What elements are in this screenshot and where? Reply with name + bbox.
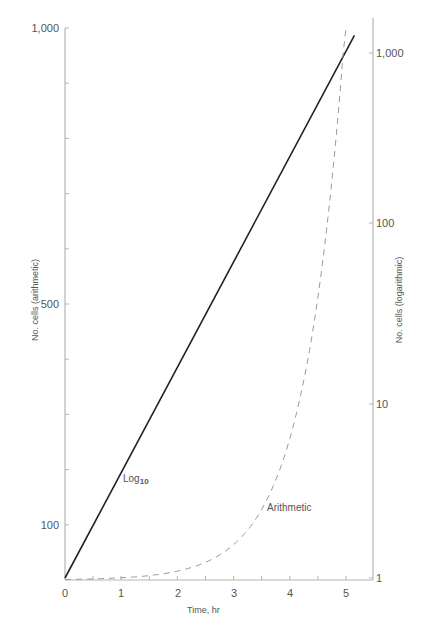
arithmetic-series-label: Arithmetic <box>267 502 311 513</box>
right-tick-100: 100 <box>376 217 394 229</box>
right-tick-1: 1 <box>376 572 382 584</box>
left-axis: 1,000 500 100 No. cells (arithmetic) <box>30 22 69 580</box>
chart: 1,000 500 100 No. cells (arithmetic) 1,0… <box>0 0 429 632</box>
left-axis-title: No. cells (arithmetic) <box>30 259 40 341</box>
x-axis-title: Time, hr <box>187 605 220 615</box>
x-tick-4: 4 <box>287 587 293 599</box>
x-tick-1: 1 <box>118 587 124 599</box>
right-tick-1000: 1,000 <box>376 47 404 59</box>
x-tick-3: 3 <box>231 587 237 599</box>
log10-series-line <box>65 35 354 578</box>
x-tick-0: 0 <box>62 587 68 599</box>
arithmetic-series-line <box>65 28 346 579</box>
right-axis-title: No. cells (logarithmic) <box>394 257 404 344</box>
left-tick-500: 500 <box>41 298 59 310</box>
right-axis: 1,000 100 10 1 No. cells (logarithmic) <box>369 18 404 584</box>
x-axis: 0 1 2 3 4 5 Time, hr <box>62 576 373 615</box>
log10-series-label: Log10 <box>123 473 149 486</box>
x-tick-5: 5 <box>343 587 349 599</box>
x-tick-2: 2 <box>175 587 181 599</box>
left-tick-1000: 1,000 <box>31 22 59 34</box>
left-tick-100: 100 <box>41 519 59 531</box>
right-tick-10: 10 <box>376 398 388 410</box>
